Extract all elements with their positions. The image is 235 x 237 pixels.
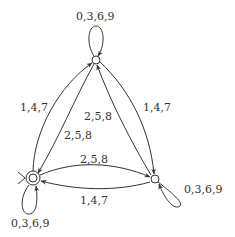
state-q0-inner bbox=[29, 174, 37, 182]
label-right-to-top: 2,5,8 bbox=[84, 110, 112, 123]
state-diagram: 0,3,6,9 0,3,6,9 0,3,6,9 1,4,7 2,5,8 2,5,… bbox=[0, 0, 235, 237]
label-right-to-start: 1,4,7 bbox=[80, 194, 108, 207]
label-start-to-right: 2,5,8 bbox=[80, 153, 108, 166]
edge-loop-top bbox=[89, 26, 103, 56]
state-q2 bbox=[151, 175, 159, 183]
label-start-to-top: 1,4,7 bbox=[20, 101, 48, 114]
edge-right-to-start bbox=[41, 181, 150, 189]
label-top-to-start: 2,5,8 bbox=[64, 129, 92, 142]
edge-loop-right bbox=[158, 182, 181, 207]
state-q1 bbox=[92, 56, 100, 64]
label-loop-right: 0,3,6,9 bbox=[184, 183, 222, 196]
edge-start-to-right bbox=[40, 165, 150, 177]
label-top-to-right: 1,4,7 bbox=[143, 101, 171, 114]
label-loop-start: 0,3,6,9 bbox=[11, 217, 49, 230]
label-loop-top: 0,3,6,9 bbox=[76, 10, 114, 23]
start-arrow-icon bbox=[18, 172, 25, 184]
edge-loop-start bbox=[22, 185, 37, 214]
